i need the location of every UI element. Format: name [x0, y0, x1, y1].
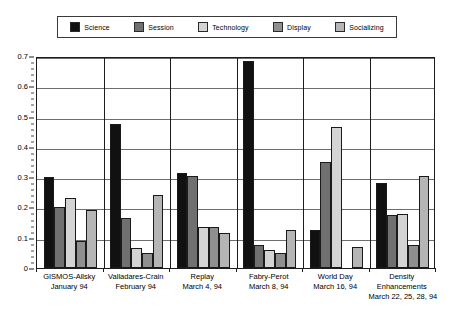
y-tick-minor: [31, 153, 34, 154]
x-axis-label-line: World Day: [302, 272, 369, 282]
x-tick: [302, 268, 303, 272]
y-tick-minor: [31, 141, 34, 142]
bar-socializing: [86, 210, 97, 268]
y-tick-minor: [31, 135, 34, 136]
x-axis-label-line: March 22, 25, 28, 94: [369, 292, 436, 302]
y-tick-minor: [31, 105, 34, 106]
legend-label: Technology: [212, 24, 248, 31]
x-axis-label: GISMOS-AllskyJanuary 94: [36, 272, 103, 292]
x-axis-label-line: Replay: [169, 272, 236, 282]
y-tick-label: 0.5: [18, 114, 28, 122]
bar-socializing: [153, 195, 164, 268]
y-tick-minor: [31, 99, 34, 100]
y-tick-minor: [31, 159, 34, 160]
x-axis-label-line: Valladares-Crain: [103, 272, 170, 282]
bar-science: [177, 173, 188, 268]
legend-swatch-display: [273, 22, 283, 32]
bar-technology: [131, 248, 142, 268]
x-axis-label-line: Density: [369, 272, 436, 282]
bar-technology: [397, 214, 408, 269]
y-tick-label: 0.4: [18, 144, 28, 152]
legend-swatch-technology: [198, 22, 208, 32]
x-tick: [36, 268, 37, 272]
y-tick-minor: [31, 75, 34, 76]
y-tick-major: [29, 269, 34, 270]
chart-legend: ScienceSessionTechnologyDisplaySocializi…: [57, 16, 397, 38]
x-axis-label: DensityEnhancementsMarch 22, 25, 28, 94: [369, 272, 436, 302]
bar-group: [37, 58, 104, 268]
bar-science: [44, 177, 55, 268]
legend-label: Science: [84, 24, 110, 31]
y-tick-minor: [31, 190, 34, 191]
x-axis-label: Valladares-CrainFebruary 94: [103, 272, 170, 292]
bar-session: [187, 176, 198, 268]
bar-technology: [198, 227, 209, 268]
legend-item-science: Science: [70, 22, 110, 32]
x-axis-label-line: February 94: [103, 282, 170, 292]
bar-socializing: [352, 247, 363, 268]
bar-session: [54, 207, 65, 268]
y-tick-minor: [31, 250, 34, 251]
bar-chart: ScienceSessionTechnologyDisplaySocializi…: [0, 0, 455, 322]
bar-display: [209, 227, 220, 268]
y-tick-label: 0.6: [18, 84, 28, 92]
bar-session: [387, 215, 398, 268]
x-axis-label-line: Fabry-Perot: [236, 272, 303, 282]
x-axis-label-line: March 8, 94: [236, 282, 303, 292]
bar-display: [408, 245, 419, 268]
y-tick-major: [29, 117, 34, 118]
y-tick-minor: [31, 81, 34, 82]
y-tick-label: 0: [24, 265, 28, 273]
x-axis-label: World DayMarch 16, 94: [302, 272, 369, 292]
legend-item-socializing: Socializing: [335, 22, 384, 32]
legend-item-display: Display: [273, 22, 311, 32]
y-tick-minor: [31, 232, 34, 233]
y-tick-minor: [31, 123, 34, 124]
x-axis-label-line: January 94: [36, 282, 103, 292]
x-axis-label: ReplayMarch 4, 94: [169, 272, 236, 292]
y-tick-minor: [31, 111, 34, 112]
bar-session: [254, 245, 265, 268]
x-axis-label: Fabry-PerotMarch 8, 94: [236, 272, 303, 292]
x-tick: [369, 268, 370, 272]
y-tick-minor: [31, 63, 34, 64]
y-tick-major: [29, 57, 34, 58]
y-tick-minor: [31, 256, 34, 257]
y-tick-major: [29, 238, 34, 239]
x-axis-label-line: Enhancements: [369, 282, 436, 292]
bar-session: [121, 218, 132, 268]
y-tick-major: [29, 208, 34, 209]
bar-science: [110, 124, 121, 268]
plot-area: [36, 57, 435, 269]
bar-session: [320, 162, 331, 268]
bar-technology: [264, 250, 275, 268]
x-axis-label-line: March 16, 94: [302, 282, 369, 292]
y-tick-label: 0.3: [18, 174, 28, 182]
y-tick-minor: [31, 220, 34, 221]
bar-science: [376, 183, 387, 268]
x-axis: GISMOS-AllskyJanuary 94Valladares-CrainF…: [36, 272, 435, 320]
bar-socializing: [419, 176, 430, 268]
bar-display: [76, 241, 87, 268]
x-axis-label-line: March 4, 94: [169, 282, 236, 292]
bar-science: [243, 61, 254, 268]
bar-group: [104, 58, 171, 268]
y-tick-minor: [31, 214, 34, 215]
bar-display: [142, 253, 153, 268]
y-tick-label: 0.7: [18, 53, 28, 61]
x-tick: [169, 268, 170, 272]
y-tick-major: [29, 87, 34, 88]
legend-swatch-socializing: [335, 22, 345, 32]
y-tick-minor: [31, 129, 34, 130]
x-axis-label-line: GISMOS-Allsky: [36, 272, 103, 282]
y-axis: 00.10.20.30.40.50.60.7: [0, 57, 34, 269]
bar-group: [237, 58, 304, 268]
bar-socializing: [219, 233, 230, 268]
y-tick-label: 0.1: [18, 235, 28, 243]
y-tick-minor: [31, 184, 34, 185]
y-tick-major: [29, 147, 34, 148]
bar-group: [370, 58, 437, 268]
bar-science: [310, 230, 321, 268]
y-tick-minor: [31, 244, 34, 245]
y-tick-minor: [31, 202, 34, 203]
